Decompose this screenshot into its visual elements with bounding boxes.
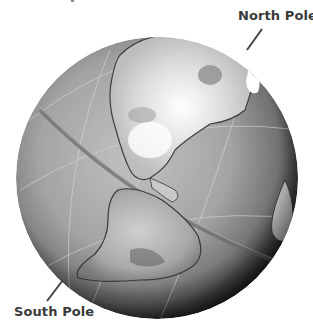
south-pole-leader-line (47, 280, 63, 301)
south-pole-label: South Pole (14, 304, 94, 319)
globe-illustration (0, 0, 313, 325)
north-pole-label: North Pole (238, 8, 313, 23)
globe (16, 26, 310, 320)
globe-figure: North Pole South Pole (0, 0, 313, 325)
north-pole-leader-line (247, 29, 262, 50)
